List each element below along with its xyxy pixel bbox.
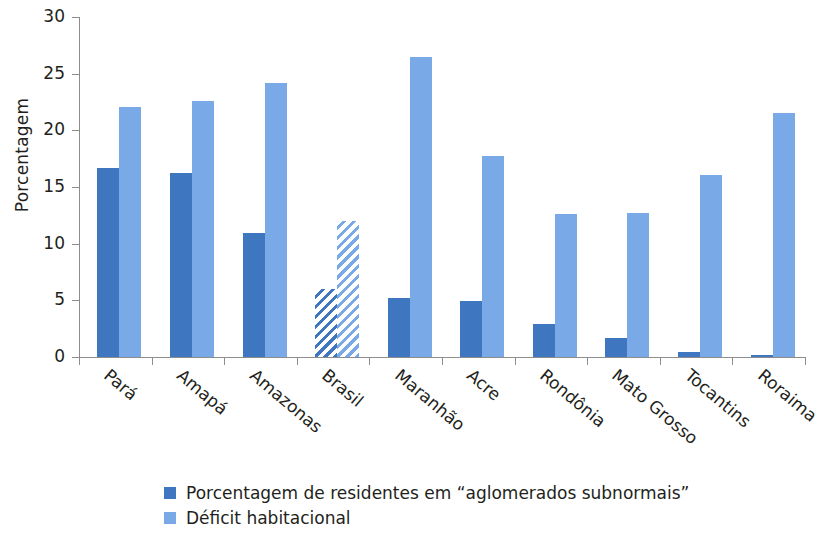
x-axis-label-acre: Acre xyxy=(463,365,505,405)
x-tick-9 xyxy=(732,357,733,365)
y-axis-title: Porcentagem xyxy=(12,45,32,265)
bar-group-tocantins[interactable] xyxy=(678,17,722,357)
x-tick-5 xyxy=(442,357,443,365)
bar-group-roraima[interactable] xyxy=(751,17,795,357)
bar-group-maranhão[interactable] xyxy=(388,17,432,357)
bar-light-pará[interactable] xyxy=(119,107,141,357)
bar-light-amapá[interactable] xyxy=(192,101,214,357)
bar-dark-acre[interactable] xyxy=(460,301,482,357)
legend-swatch-0 xyxy=(164,487,176,499)
legend-swatch-1 xyxy=(164,512,176,524)
x-tick-10 xyxy=(805,357,806,365)
x-tick-7 xyxy=(587,357,588,365)
bar-light-acre[interactable] xyxy=(482,156,504,357)
legend-label-0: Porcentagem de residentes em “aglomerado… xyxy=(186,483,689,503)
y-tick-label-0: 0 xyxy=(54,346,65,366)
bar-dark-rondônia[interactable] xyxy=(533,324,555,357)
bar-group-amapá[interactable] xyxy=(170,17,214,357)
y-tick-label-10: 10 xyxy=(43,233,65,253)
bar-group-mato-grosso[interactable] xyxy=(605,17,649,357)
bar-group-acre[interactable] xyxy=(460,17,504,357)
x-axis-labels: ParáAmapáAmazonasBrasilMaranhãoAcreRondô… xyxy=(79,365,805,465)
x-axis-label-rondônia: Rondônia xyxy=(536,365,610,431)
y-tick-10: 10 xyxy=(72,244,79,245)
bar-light-amazonas[interactable] xyxy=(265,83,287,357)
bar-light-mato-grosso[interactable] xyxy=(627,213,649,357)
bar-light-brasil[interactable] xyxy=(337,221,359,357)
x-axis-label-roraima: Roraima xyxy=(754,365,819,426)
bar-dark-amazonas[interactable] xyxy=(243,233,265,357)
x-axis-label-pará: Pará xyxy=(100,365,141,404)
bar-dark-maranhão[interactable] xyxy=(388,298,410,357)
x-tick-3 xyxy=(297,357,298,365)
legend-item-1[interactable]: Déficit habitacional xyxy=(164,508,689,528)
y-axis-line xyxy=(79,17,80,357)
x-axis-label-amazonas: Amazonas xyxy=(246,365,326,437)
bar-dark-roraima[interactable] xyxy=(751,355,773,357)
bar-light-maranhão[interactable] xyxy=(410,57,432,357)
y-tick-15: 15 xyxy=(72,187,79,188)
x-tick-6 xyxy=(515,357,516,365)
bar-dark-amapá[interactable] xyxy=(170,173,192,357)
bar-light-rondônia[interactable] xyxy=(555,214,577,357)
bar-dark-tocantins[interactable] xyxy=(678,352,700,357)
x-axis-label-maranhão: Maranhão xyxy=(391,365,469,435)
y-tick-0: 0 xyxy=(72,357,79,358)
x-axis-label-brasil: Brasil xyxy=(318,365,367,411)
plot-area: 051015202530 xyxy=(79,17,805,357)
y-tick-label-20: 20 xyxy=(43,119,65,139)
y-tick-label-25: 25 xyxy=(43,63,65,83)
x-tick-4 xyxy=(369,357,370,365)
x-tick-8 xyxy=(660,357,661,365)
chart-legend: Porcentagem de residentes em “aglomerado… xyxy=(164,483,689,533)
bar-group-brasil[interactable] xyxy=(315,17,359,357)
bar-group-pará[interactable] xyxy=(97,17,141,357)
x-axis-label-amapá: Amapá xyxy=(173,365,232,419)
y-tick-20: 20 xyxy=(72,130,79,131)
y-tick-25: 25 xyxy=(72,74,79,75)
y-tick-30: 30 xyxy=(72,17,79,18)
bar-group-rondônia[interactable] xyxy=(533,17,577,357)
y-tick-label-15: 15 xyxy=(43,176,65,196)
bar-dark-brasil[interactable] xyxy=(315,289,337,357)
bar-dark-mato-grosso[interactable] xyxy=(605,338,627,357)
legend-item-0[interactable]: Porcentagem de residentes em “aglomerado… xyxy=(164,483,689,503)
bar-group-amazonas[interactable] xyxy=(243,17,287,357)
bar-light-tocantins[interactable] xyxy=(700,175,722,357)
bar-light-roraima[interactable] xyxy=(773,113,795,357)
x-tick-0 xyxy=(79,357,80,365)
x-tick-1 xyxy=(152,357,153,365)
bar-dark-pará[interactable] xyxy=(97,168,119,357)
x-tick-2 xyxy=(224,357,225,365)
y-tick-label-30: 30 xyxy=(43,6,65,26)
y-tick-label-5: 5 xyxy=(54,289,65,309)
legend-label-1: Déficit habitacional xyxy=(186,508,351,528)
y-tick-5: 5 xyxy=(72,300,79,301)
x-axis-label-tocantins: Tocantins xyxy=(681,365,755,431)
